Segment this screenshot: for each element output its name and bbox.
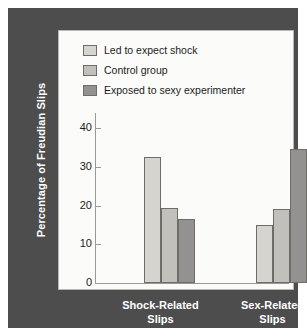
x-axis-category-label-sex-related-slips: Sex-RelatedSlips	[213, 298, 307, 326]
chart-frame: Led to expect shock Control group Expose…	[8, 8, 298, 328]
bar-group-2-series-1	[256, 225, 273, 283]
y-tick-mark-0	[96, 283, 101, 284]
y-tick-label-40: 40	[62, 121, 92, 133]
x-axis-line	[95, 283, 289, 284]
bar-group-1-series-2	[161, 208, 178, 283]
bar-group-1-series-1	[144, 157, 161, 283]
bars-layer	[96, 113, 289, 283]
y-axis-title: Percentage of Freudian Slips	[30, 30, 52, 290]
y-tick-label-10: 10	[62, 237, 92, 249]
y-tick-label-30: 30	[62, 160, 92, 172]
bar-group-2-series-2	[273, 209, 290, 283]
bar-group-2-series-3	[290, 149, 306, 283]
x-axis-category-label-shock-related-slips: Shock-RelatedSlips	[101, 298, 221, 326]
y-tick-label-0: 0	[62, 276, 92, 288]
chart-figure: Led to expect shock Control group Expose…	[0, 0, 306, 336]
plot-panel: Led to expect shock Control group Expose…	[58, 30, 294, 290]
y-tick-label-20: 20	[62, 199, 92, 211]
bar-group-1-series-3	[178, 219, 195, 283]
y-axis-tick-labels: 010203040	[59, 31, 92, 291]
